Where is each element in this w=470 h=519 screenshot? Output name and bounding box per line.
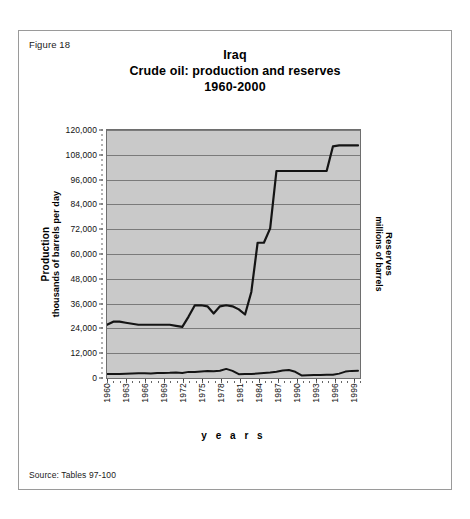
y-axis-minor-tick (101, 154, 103, 155)
x-axis-title: y e a r s (106, 430, 361, 441)
y-axis-minor-tick (101, 278, 103, 279)
y-axis-minor-tick (101, 130, 103, 131)
x-axis-minor-tick (145, 381, 146, 383)
y-axis-minor-tick (101, 258, 103, 259)
x-axis-minor-tick (158, 381, 159, 383)
x-axis-minor-tick (120, 381, 121, 383)
y-axis-minor-tick (101, 134, 103, 135)
y-axis-labels: 012,00024,00036,00048,00060,00072,00084,… (19, 123, 103, 385)
x-axis-minor-tick (347, 381, 348, 383)
x-axis-tick-label: 1987 (273, 383, 283, 403)
y-axis-minor-tick (101, 288, 103, 289)
y-axis-minor-tick (101, 298, 103, 299)
x-axis-minor-tick (126, 381, 127, 383)
x-axis-minor-tick (335, 381, 336, 383)
y-axis-tick-label: 96,000 (70, 175, 97, 185)
y-axis-tick-label: 84,000 (70, 199, 97, 209)
x-axis-tick-label: 1966 (140, 383, 150, 403)
x-axis-minor-tick (227, 381, 228, 383)
y-axis-minor-tick (101, 254, 103, 255)
y-axis-minor-tick (101, 209, 103, 210)
y-axis-minor-tick (101, 229, 103, 230)
y-axis-minor-tick (101, 139, 103, 140)
x-axis-tick-label: 1978 (216, 383, 226, 403)
x-axis-minor-tick (252, 381, 253, 383)
y-axis-minor-tick (101, 268, 103, 269)
x-axis-tick-label: 1996 (330, 383, 340, 403)
y-axis-minor-tick (101, 283, 103, 284)
y-axis-minor-tick (101, 224, 103, 225)
x-axis-minor-tick (309, 381, 310, 383)
y-axis-tick-label: 48,000 (70, 274, 97, 284)
y2-axis-title: Reserves millions of barrels (371, 129, 397, 379)
y-axis-minor-tick (101, 368, 103, 369)
y-axis-minor-tick (101, 179, 103, 180)
x-axis-minor-tick (221, 381, 222, 383)
x-axis-minor-tick (139, 381, 140, 383)
x-axis-minor-tick (215, 381, 216, 383)
y2-axis-title-line2: millions of barrels (374, 216, 384, 291)
y-axis-minor-tick (101, 313, 103, 314)
x-axis-minor-tick (316, 381, 317, 383)
x-axis-minor-tick (284, 381, 285, 383)
x-axis-minor-tick (341, 381, 342, 383)
x-axis-minor-tick (132, 381, 133, 383)
y-axis-minor-tick (101, 293, 103, 294)
y-axis-minor-tick (101, 378, 103, 379)
x-axis-tick-label: 1963 (121, 383, 131, 403)
x-axis-tick-label: 1984 (254, 383, 264, 403)
x-axis-tick-label: 1969 (159, 383, 169, 403)
y-axis-minor-tick (101, 249, 103, 250)
y-axis-minor-tick (101, 144, 103, 145)
x-axis-minor-tick (278, 381, 279, 383)
y-axis-minor-tick (101, 348, 103, 349)
x-axis-tick-label: 1972 (178, 383, 188, 403)
y-axis-minor-tick (101, 338, 103, 339)
x-axis-tick-label: 1993 (311, 383, 321, 403)
screenshot-page: Figure 18 Iraq Crude oil: production and… (0, 0, 470, 519)
y-axis-tick-label: 60,000 (70, 249, 97, 259)
y-axis-minor-tick (101, 353, 103, 354)
x-axis-minor-tick (271, 381, 272, 383)
y-axis-minor-tick (101, 323, 103, 324)
chart-area: Production thousands of barrels per day … (19, 31, 453, 491)
source-note: Source: Tables 97-100 (29, 470, 116, 480)
y-axis-minor-tick (101, 358, 103, 359)
y-axis-minor-tick (101, 169, 103, 170)
x-axis-tick-label: 1981 (235, 383, 245, 403)
x-axis-minor-tick (259, 381, 260, 383)
y-axis-minor-tick (101, 159, 103, 160)
y-axis-minor-tick (101, 318, 103, 319)
x-axis-minor-tick (297, 381, 298, 383)
y-axis-minor-tick (101, 189, 103, 190)
y-axis-minor-tick (101, 149, 103, 150)
x-axis-minor-tick (240, 381, 241, 383)
x-axis-minor-tick (303, 381, 304, 383)
y-axis-tick-label: 36,000 (70, 299, 97, 309)
y-axis-tick-label: 72,000 (70, 224, 97, 234)
series-lines (107, 130, 360, 378)
y-axis-minor-tick (101, 219, 103, 220)
y-axis-tick-label: 24,000 (70, 323, 97, 333)
x-axis-minor-tick (183, 381, 184, 383)
x-axis-tick-label: 1990 (292, 383, 302, 403)
y-axis-minor-tick (101, 373, 103, 374)
x-axis-minor-tick (246, 381, 247, 383)
plot-area (106, 129, 361, 379)
x-axis-labels: 1960196319661969197219751978198119841987… (106, 383, 361, 425)
x-axis-minor-tick (177, 381, 178, 383)
x-axis-minor-tick (265, 381, 266, 383)
y-axis-minor-tick (101, 333, 103, 334)
x-axis-minor-tick (290, 381, 291, 383)
series-reserves (107, 145, 358, 326)
x-axis-minor-tick (208, 381, 209, 383)
y-axis-minor-tick (101, 343, 103, 344)
x-axis-minor-tick (322, 381, 323, 383)
x-axis-minor-tick (189, 381, 190, 383)
x-axis-minor-tick (234, 381, 235, 383)
y-axis-minor-tick (101, 303, 103, 304)
y-axis-minor-tick (101, 234, 103, 235)
y-axis-minor-tick (101, 204, 103, 205)
x-axis-minor-tick (107, 381, 108, 383)
figure-panel: Figure 18 Iraq Crude oil: production and… (18, 30, 452, 490)
